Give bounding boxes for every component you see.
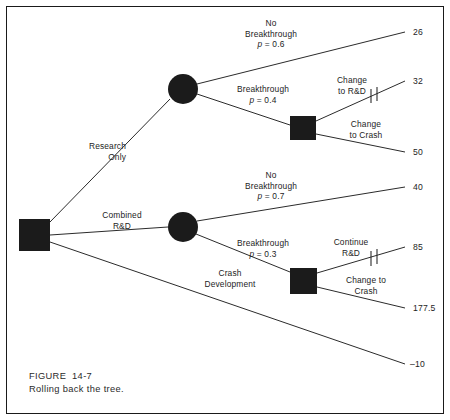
label-no-breakthrough-a-line2: Breakthrough [245,29,297,39]
label-change-to-crash-b: Change toCrash [346,275,386,296]
label-combined-rd-line2: R&D [113,221,131,231]
figure-canvas: ResearchOnly CombinedR&D CrashDevelopmen… [0,0,450,420]
label-crash-development-line1: Crash [218,268,241,278]
label-research-only-line2: Only [108,152,126,162]
payoff-value-40: 40 [413,182,423,192]
label-breakthrough-a-p-value: = 0.4 [254,95,276,105]
label-no-breakthrough-a: NoBreakthroughp = 0.6 [245,18,297,50]
payoff-value-50: 50 [413,147,423,157]
payoff-value-26: 26 [413,27,423,37]
label-continue-rd-line1: Continue [334,237,369,247]
figure-number: FIGURE 14-7 [29,370,124,383]
label-breakthrough-a-line1: Breakthrough [237,84,289,94]
payoff-value-177-5: 177.5 [413,303,436,313]
label-crash-development: CrashDevelopment [205,268,256,289]
root-decision-node [19,219,50,251]
label-combined-rd-line1: Combined [102,210,141,220]
label-change-to-crash-a: Changeto Crash [350,119,383,140]
label-no-breakthrough-a-p-value: = 0.6 [262,39,284,49]
label-no-breakthrough-b: NoBreakthroughp = 0.7 [245,170,297,202]
payoff-value-minus-10: –10 [410,359,425,369]
label-research-only-line1: Research [89,141,126,151]
label-no-breakthrough-a-line1: No [265,18,276,28]
label-breakthrough-b-p-value: = 0.3 [254,249,276,259]
label-change-to-rd: Changeto R&D [337,75,367,96]
label-breakthrough-b: Breakthroughp = 0.3 [237,238,289,259]
label-continue-rd-line2: R&D [342,248,360,258]
decision-tree-graphic [0,0,450,420]
decision-node-after-breakthrough-b [290,268,317,294]
label-research-only: ResearchOnly [89,141,126,162]
label-no-breakthrough-b-p-value: = 0.7 [262,191,284,201]
chance-node-research-only [168,74,198,104]
label-change-to-rd-line1: Change [337,75,367,85]
label-change-to-crash-b-line1: Change to [346,275,386,285]
payoff-value-85: 85 [413,242,423,252]
pruned-branch-marks [371,87,377,266]
label-crash-development-line2: Development [205,279,256,289]
label-breakthrough-b-line1: Breakthrough [237,238,289,248]
label-change-to-crash-a-line2: to Crash [350,130,383,140]
figure-caption: FIGURE 14-7 Rolling back the tree. [29,370,124,396]
label-change-to-crash-a-line1: Change [351,119,381,129]
payoff-value-32: 32 [413,76,423,86]
chance-node-combined-rd [168,212,198,242]
figure-caption-text: Rolling back the tree. [29,383,124,396]
branch-no-breakthrough-a [197,32,405,84]
label-continue-rd: ContinueR&D [334,237,369,258]
label-change-to-rd-line2: to R&D [338,86,366,96]
branch-crash-development [50,242,405,364]
label-combined-rd: CombinedR&D [102,210,141,231]
label-no-breakthrough-b-line1: No [265,170,276,180]
decision-node-after-breakthrough-a [290,116,316,140]
label-change-to-crash-b-line2: Crash [354,286,377,296]
branch-no-breakthrough-b [197,187,405,221]
label-breakthrough-a: Breakthroughp = 0.4 [237,84,289,105]
label-no-breakthrough-b-line2: Breakthrough [245,181,297,191]
